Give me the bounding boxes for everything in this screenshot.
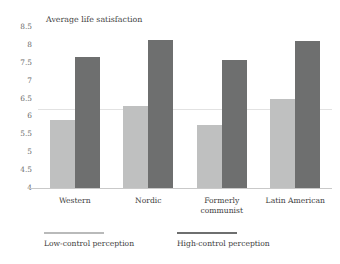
x-axis-category-label: Western [38, 196, 112, 206]
bar [197, 125, 222, 188]
bar-group [197, 27, 247, 188]
x-axis-category-label-line: Latin American [259, 196, 333, 206]
y-axis-tick-label: 7 [6, 77, 32, 85]
bar [75, 57, 100, 188]
x-axis-category-label-line: communist [185, 206, 259, 216]
chart-legend: Low-control perceptionHigh-control perce… [44, 232, 334, 256]
y-axis-tick-label: 8 [6, 41, 32, 49]
legend-swatch [44, 232, 104, 234]
y-axis-tick-label: 7.5 [6, 59, 32, 67]
y-axis-tick-label: 4.5 [6, 166, 32, 174]
bar [148, 40, 173, 188]
legend-label: High-control perception [177, 239, 270, 248]
legend-swatch [177, 232, 237, 234]
legend-item[interactable]: High-control perception [177, 232, 270, 248]
x-axis-baseline [30, 188, 332, 189]
legend-label: Low-control perception [44, 239, 134, 248]
bar [295, 41, 320, 188]
x-axis-category-label-line: Formerly [185, 196, 259, 206]
bar [50, 120, 75, 188]
x-axis-category-label-line: Western [38, 196, 112, 206]
plot-area [38, 27, 332, 188]
y-axis-tick-label: 5.5 [6, 130, 32, 138]
bar-chart: Average life satisfaction 44.555.566.577… [0, 0, 340, 264]
chart-title: Average life satisfaction [46, 15, 142, 24]
x-axis-category-label: Nordic [112, 196, 186, 206]
y-axis-tick-label: 5 [6, 148, 32, 156]
legend-item[interactable]: Low-control perception [44, 232, 134, 248]
y-axis-tick-label: 6.5 [6, 95, 32, 103]
bar [270, 99, 295, 188]
bar-group [270, 27, 320, 188]
y-axis: 44.555.566.577.588.5 [0, 0, 32, 264]
x-axis-category-label: Latin American [259, 196, 333, 206]
bar [123, 106, 148, 188]
bar-group [123, 27, 173, 188]
bar [222, 60, 247, 188]
y-axis-tick-label: 4 [6, 184, 32, 192]
bar-group [50, 27, 100, 188]
y-axis-tick-label: 8.5 [6, 23, 32, 31]
x-axis-category-label-line: Nordic [112, 196, 186, 206]
y-axis-tick-label: 6 [6, 112, 32, 120]
x-axis-category-label: Formerlycommunist [185, 196, 259, 216]
